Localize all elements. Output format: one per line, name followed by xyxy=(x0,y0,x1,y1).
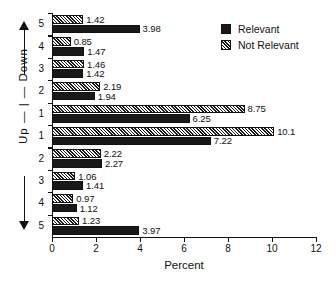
x-axis-tick-label: 12 xyxy=(304,244,328,254)
bar-value-label: 7.22 xyxy=(214,136,232,146)
bar-group: 1.461.42 xyxy=(52,58,316,80)
bar-not-relevant[interactable] xyxy=(52,149,101,158)
bar-group: 8.756.25 xyxy=(52,103,316,125)
bar-value-label: 1.42 xyxy=(86,69,104,79)
bar-relevant[interactable] xyxy=(52,25,140,34)
y-axis-tick-label: 5 xyxy=(26,19,44,29)
arrow-down-shaft xyxy=(24,176,25,222)
bar-group: 1.061.41 xyxy=(52,170,316,192)
x-axis-tick xyxy=(52,237,53,242)
y-axis-tick-label: 1 xyxy=(26,109,44,119)
x-axis-tick xyxy=(96,237,97,242)
bar-relevant[interactable] xyxy=(52,114,190,123)
bar-not-relevant[interactable] xyxy=(52,37,71,46)
bar-not-relevant[interactable] xyxy=(52,60,84,69)
bar-relevant[interactable] xyxy=(52,137,211,146)
x-axis-tick xyxy=(184,237,185,242)
bar-value-label: 1.41 xyxy=(86,181,104,191)
bar-group: 2.222.27 xyxy=(52,147,316,169)
bar-value-label: 1.12 xyxy=(80,204,98,214)
x-axis-tick xyxy=(272,237,273,242)
bar-value-label: 3.97 xyxy=(142,226,160,236)
bar-value-label: 10.1 xyxy=(277,127,295,137)
bar-group: 0.971.12 xyxy=(52,192,316,214)
bar-relevant[interactable] xyxy=(52,92,95,101)
y-axis-tick-label: 4 xyxy=(26,42,44,52)
x-axis-title: Percent xyxy=(52,259,316,271)
bar-relevant[interactable] xyxy=(52,226,139,235)
bar-chart-figure: Up — | — Down 5432112345 1.423.980.851.4… xyxy=(0,0,336,282)
x-axis-tick-label: 10 xyxy=(260,244,284,254)
bar-not-relevant[interactable] xyxy=(52,172,75,181)
legend-swatch-not-relevant xyxy=(221,40,231,50)
bar-not-relevant[interactable] xyxy=(52,194,73,203)
bar-relevant[interactable] xyxy=(52,69,83,78)
bar-group: 2.191.94 xyxy=(52,80,316,102)
x-axis-tick-label: 8 xyxy=(216,244,240,254)
bar-group: 10.17.22 xyxy=(52,125,316,147)
bar-not-relevant[interactable] xyxy=(52,15,83,24)
bar-not-relevant[interactable] xyxy=(52,105,245,114)
bar-relevant[interactable] xyxy=(52,159,102,168)
bar-relevant[interactable] xyxy=(52,204,77,213)
bar-value-label: 1.47 xyxy=(87,47,105,57)
legend-label-not-relevant: Not Relevant xyxy=(238,40,299,51)
x-axis-tick-label: 6 xyxy=(172,244,196,254)
legend-swatch-relevant xyxy=(221,24,231,34)
legend-label-relevant: Relevant xyxy=(238,24,279,35)
x-axis-tick-label: 4 xyxy=(128,244,152,254)
y-axis-tick-label: 2 xyxy=(26,154,44,164)
y-axis-tick-label: 5 xyxy=(26,221,44,231)
bar-value-label: 1.94 xyxy=(98,92,116,102)
x-axis-tick xyxy=(228,237,229,242)
bar-relevant[interactable] xyxy=(52,181,83,190)
bar-value-label: 1.23 xyxy=(82,216,100,226)
bar-not-relevant[interactable] xyxy=(52,217,79,226)
bar-value-label: 8.75 xyxy=(248,104,266,114)
y-axis-tick-label: 3 xyxy=(26,176,44,186)
y-axis-tick-label: 3 xyxy=(26,64,44,74)
y-axis-tick-label: 4 xyxy=(26,198,44,208)
legend-item-relevant: Relevant xyxy=(221,22,299,36)
legend-item-not-relevant: Not Relevant xyxy=(221,38,299,52)
bar-value-label: 6.25 xyxy=(193,114,211,124)
bar-value-label: 3.98 xyxy=(143,24,161,34)
x-axis-tick-label: 0 xyxy=(40,244,64,254)
x-axis-tick xyxy=(140,237,141,242)
x-axis-tick-label: 2 xyxy=(84,244,108,254)
y-axis-tick-label: 2 xyxy=(26,86,44,96)
bar-value-label: 2.27 xyxy=(105,159,123,169)
chart-legend: Relevant Not Relevant xyxy=(221,22,299,54)
bar-relevant[interactable] xyxy=(52,47,84,56)
bar-not-relevant[interactable] xyxy=(52,127,274,136)
x-axis-tick xyxy=(316,237,317,242)
bar-not-relevant[interactable] xyxy=(52,82,100,91)
bar-value-label: 1.42 xyxy=(86,15,104,25)
bar-group: 1.233.97 xyxy=(52,215,316,237)
y-axis-tick-label: 1 xyxy=(26,131,44,141)
